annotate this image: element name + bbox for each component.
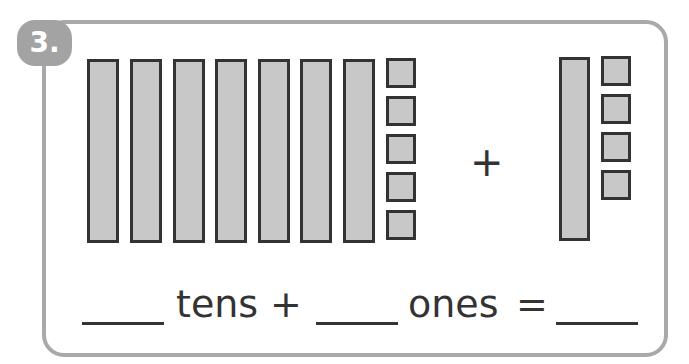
ones-answer-blank[interactable]	[316, 322, 398, 325]
ten-rod	[130, 59, 162, 243]
one-cube	[386, 134, 416, 164]
tens-answer-blank[interactable]	[82, 322, 164, 325]
one-cube	[386, 96, 416, 126]
one-cube	[386, 210, 416, 240]
ten-rod	[87, 59, 119, 243]
one-cube	[386, 172, 416, 202]
one-cube	[601, 132, 631, 162]
plus-sign: +	[470, 140, 504, 184]
sum-answer-blank[interactable]	[556, 322, 638, 325]
ten-rod	[215, 59, 247, 243]
problem-number-badge: 3.	[17, 20, 72, 66]
one-cube	[601, 94, 631, 124]
ten-rod	[173, 59, 205, 243]
ten-rod	[343, 59, 375, 243]
ones-label: ones	[408, 282, 499, 326]
tens-label: tens	[176, 282, 258, 326]
equation-plus: +	[270, 282, 302, 326]
ten-rod	[258, 59, 290, 243]
one-cube	[386, 58, 416, 88]
ten-rod	[300, 59, 332, 243]
ten-rod	[559, 57, 590, 241]
one-cube	[601, 170, 631, 200]
one-cube	[601, 56, 631, 86]
equation-equals: =	[516, 282, 548, 326]
